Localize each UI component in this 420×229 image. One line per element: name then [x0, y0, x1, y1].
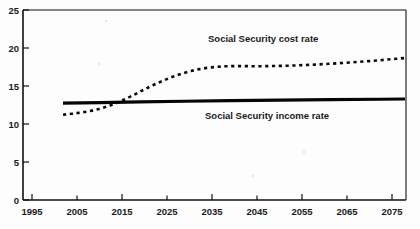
x-tick-label-2015: 2015 [111, 206, 133, 217]
y-tick-label-5: 5 [14, 157, 20, 168]
x-axis-tick-labels: 1995 2005 2015 2025 2035 2045 2055 2065 … [21, 206, 403, 217]
x-tick-label-1995: 1995 [21, 206, 43, 217]
social-security-rates-chart: 0 5 10 15 20 25 1995 2005 2015 2025 2035… [0, 0, 420, 229]
x-tick-label-2055: 2055 [291, 206, 313, 217]
x-tick-label-2065: 2065 [336, 206, 358, 217]
y-tick-label-15: 15 [8, 81, 19, 92]
scan-speck [98, 63, 100, 65]
x-tick-label-2045: 2045 [246, 206, 268, 217]
income-rate-label: Social Security income rate [205, 110, 329, 121]
y-tick-label-10: 10 [8, 119, 19, 130]
scan-speck [252, 175, 254, 177]
x-tick-label-2035: 2035 [201, 206, 223, 217]
y-tick-label-25: 25 [8, 5, 19, 16]
x-tick-label-2025: 2025 [156, 206, 178, 217]
x-tick-label-2005: 2005 [66, 206, 88, 217]
x-tick-label-2075: 2075 [381, 206, 403, 217]
y-tick-label-0: 0 [14, 195, 19, 206]
chart-screenshot: 0 5 10 15 20 25 1995 2005 2015 2025 2035… [0, 0, 420, 229]
cost-rate-label: Social Security cost rate [208, 33, 318, 44]
scan-speck [303, 151, 305, 153]
y-tick-label-20: 20 [8, 43, 19, 54]
scan-speck [105, 20, 107, 22]
